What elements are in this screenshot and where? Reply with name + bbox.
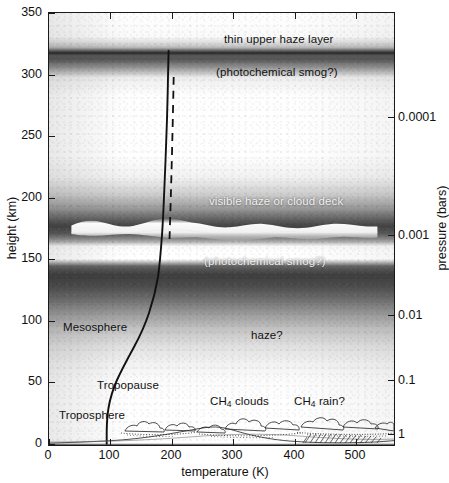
y-tick-350 [49,13,55,14]
cloud-puff [165,423,195,431]
x-axis-title: temperature (K) [160,465,290,479]
y-label-100: 100 [2,313,42,327]
annotation-troposphere: Troposphere [59,409,125,421]
ch4-clouds-word: clouds [235,395,269,407]
ch4-rain-word: rain? [319,395,345,407]
x-tick-top-400 [295,13,296,19]
cloud-base-stipple [127,435,175,436]
x-tick-0 [49,439,50,445]
annotation-photochemical-smog-lower: (photochemical smog?) [204,255,326,267]
annotation-photochemical-smog-upper: (photochemical smog?) [216,66,338,78]
annotation-haze-query: haze? [251,329,283,341]
annotation-mesosphere: Mesosphere [63,321,127,333]
pressure-label-0.1: 0.1 [398,373,415,387]
x-tick-500 [356,439,357,445]
cloud-puff [125,422,164,432]
x-tick-top-200 [172,13,173,19]
annotation-ch4-clouds: CH4 clouds [210,395,269,409]
cloud-base-stipple [199,433,301,436]
pressure-label-0.01: 0.01 [398,308,422,322]
annotation-tropopause: Tropopause [97,379,159,391]
annotation-visible-haze-cloud-deck: visible haze or cloud deck [209,195,343,207]
y-tick-250 [49,136,55,137]
pressure-label-1: 1 [398,427,405,441]
x-label-0: 0 [33,448,63,462]
y-label-300: 300 [2,67,42,81]
x-label-500: 500 [340,448,370,462]
y-axis-title: height (km) [5,188,19,268]
y-label-350: 350 [2,5,42,19]
cloud-base-stipple [121,432,197,435]
p-tick-0.001 [388,235,394,236]
y-tick-100 [49,321,55,322]
x-tick-200 [172,439,173,445]
cloud-puff [265,421,299,430]
p-tick-1 [388,434,394,435]
methane-rain-hatching [303,434,381,443]
p-tick-0.0001 [388,117,394,118]
y-tick-300 [49,75,55,76]
pressure-label-0.001: 0.001 [398,228,429,242]
y-tick-200 [49,198,55,199]
annotation-ch4-rain: CH4 rain? [294,395,345,409]
x-tick-top-100 [110,13,111,19]
cloud-base-stipple [297,433,394,435]
cloud-puff [197,425,225,433]
plot-area: thin upper haze layer (photochemical smo… [48,12,395,446]
x-tick-top-500 [356,13,357,19]
atmosphere-profile-figure: thin upper haze layer (photochemical smo… [0,0,449,483]
x-tick-top-300 [233,13,234,19]
x-tick-100 [110,439,111,445]
x-label-300: 300 [217,448,247,462]
cloud-puff [343,420,378,429]
p-tick-0.01 [388,315,394,316]
cloud-base-stipple [211,436,273,437]
cloud-base-stipple [307,435,387,436]
y-label-250: 250 [2,128,42,142]
y-label-50: 50 [2,374,42,388]
annotation-thin-upper-haze: thin upper haze layer [224,33,334,45]
x-label-100: 100 [94,448,124,462]
x-label-400: 400 [279,448,309,462]
x-tick-300 [233,439,234,445]
cloud-puff [301,418,344,430]
x-tick-400 [295,439,296,445]
y-tick-50 [49,382,55,383]
pressure-label-0.0001: 0.0001 [398,110,436,124]
pressure-axis-title: pressure (bars) [435,178,449,278]
y-tick-150 [49,259,55,260]
cloud-puff [225,419,266,431]
p-tick-0.1 [388,380,394,381]
x-label-200: 200 [156,448,186,462]
